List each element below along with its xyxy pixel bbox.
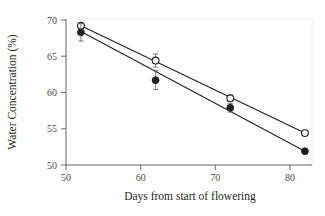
y-tick-labels: 50 55 60 65 70 [47,15,57,171]
data-point-filled [302,148,309,155]
data-point-open [227,95,234,102]
scatter-chart: 50 55 60 65 70 50 60 70 80 Days from sta… [0,0,325,216]
data-point-open [302,130,309,137]
trend-line [81,26,305,133]
x-tick-label: 70 [210,172,220,183]
y-tick-marks [61,20,66,165]
x-axis-title: Days from start of flowering [124,190,256,203]
data-point-open [152,57,159,64]
data-point-filled [227,104,234,111]
plot-frame [66,19,312,165]
series-filled-circle-series [78,24,309,155]
y-tick-label: 50 [47,160,57,171]
x-tick-marks [66,165,290,170]
y-axis-title: Water Concentration (%) [6,34,19,149]
trend-line [81,32,305,152]
x-tick-labels: 50 60 70 80 [61,172,295,183]
x-tick-label: 50 [61,172,71,183]
data-series-layer [78,22,309,154]
y-tick-label: 55 [47,123,57,134]
data-point-filled [78,29,85,36]
chart-figure: 50 55 60 65 70 50 60 70 80 Days from sta… [0,0,325,216]
series-open-circle-series [78,22,309,136]
y-tick-label: 65 [47,51,57,62]
x-tick-label: 80 [285,172,295,183]
y-tick-label: 60 [47,87,57,98]
data-point-filled [152,77,159,84]
y-tick-label: 70 [47,15,57,26]
x-tick-label: 60 [136,172,146,183]
